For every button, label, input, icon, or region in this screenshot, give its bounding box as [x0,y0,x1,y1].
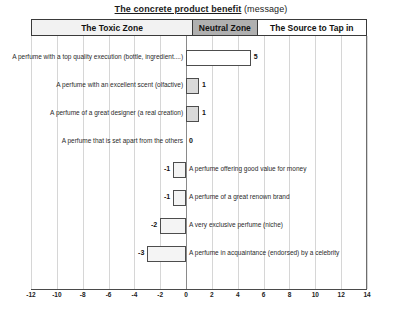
bar-row: A perfume with an excellent scent (olfac… [31,72,367,100]
zone-toxic-label: The Toxic Zone [81,23,143,33]
x-tick-label: 12 [338,291,345,298]
bar [147,246,186,262]
bar-category-label: A perfume with an excellent scent (olfac… [56,80,183,90]
x-tick-label: -2 [157,291,163,298]
x-tick-label: 14 [363,291,370,298]
zone-header-band: The Toxic Zone Neutral Zone The Source t… [31,19,367,36]
chart-title-main: The concrete product benefit [115,4,242,14]
x-axis-tick-labels: -12-10-8-6-4-202468101214 [31,291,367,305]
bar-category-label: A perfume with a top quality execution (… [12,52,183,62]
bar-category-label: A perfume in acquaintance (endorsed) by … [189,248,339,258]
zone-neutral: Neutral Zone [193,20,258,35]
bar-row: A perfume of a great designer (a real cr… [31,100,367,128]
bar-value-label: -3 [138,248,144,258]
bar-value-label: 1 [202,108,206,118]
bar [160,218,186,234]
bar-row: A very exclusive perfume (niche)-2 [31,212,367,240]
zone-neutral-label: Neutral Zone [199,23,251,33]
bar [186,78,199,94]
bar-value-label: 5 [254,52,258,62]
bar-category-label: A perfume of a great designer (a real cr… [50,108,183,118]
bar-row: A perfume in acquaintance (endorsed) by … [31,240,367,268]
bar-category-label: A very exclusive perfume (niche) [189,220,283,230]
bar-row: A perfume of a great renown brand-1 [31,184,367,212]
x-tick-label: 10 [312,291,319,298]
bar-category-label: A perfume that is set apart from the oth… [62,136,183,146]
bar-value-label: 0 [189,136,193,146]
zone-source-to-tap-in: The Source to Tap in [258,20,366,35]
chart-title: The concrete product benefit (message) [0,4,402,14]
bar [186,50,251,66]
bar [173,190,186,206]
x-tick-label: -12 [26,291,35,298]
bar-value-label: -1 [164,164,170,174]
plot-area: A perfume with a top quality execution (… [31,36,367,290]
x-tick-label: -4 [131,291,137,298]
chart-container: The concrete product benefit (message) T… [0,0,402,310]
x-tick-label: 0 [184,291,188,298]
x-tick-label: 6 [262,291,266,298]
bar-row: A perfume that is set apart from the oth… [31,128,367,156]
bar [186,106,199,122]
x-tick-label: 8 [288,291,292,298]
bar-value-label: 1 [202,80,206,90]
x-tick-label: 2 [210,291,214,298]
x-tick-label: -10 [52,291,61,298]
bar-value-label: -1 [164,192,170,202]
zone-source-label: The Source to Tap in [270,23,353,33]
x-tick-label: -8 [80,291,86,298]
bar-category-label: A perfume offering good value for money [189,164,306,174]
x-tick-label: -6 [106,291,112,298]
chart-title-suffix: (message) [241,4,287,14]
zone-toxic: The Toxic Zone [32,20,193,35]
bar-category-label: A perfume of a great renown brand [189,192,289,202]
gridline [367,36,368,289]
x-tick-label: 4 [236,291,240,298]
bar-value-label: -2 [151,220,157,230]
bar-row: A perfume with a top quality execution (… [31,44,367,72]
bar [173,162,186,178]
bar-row: A perfume offering good value for money-… [31,156,367,184]
plot-frame-bottom [31,289,367,290]
